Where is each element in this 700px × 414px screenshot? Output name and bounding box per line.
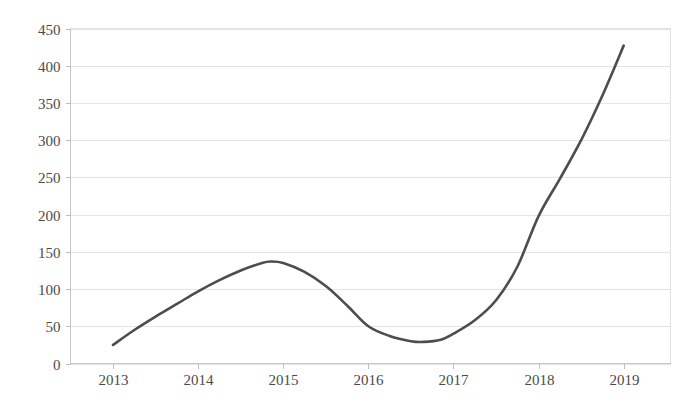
x-tick-label-2019: 2019 — [610, 372, 640, 388]
y-tick-label-150: 150 — [38, 245, 61, 261]
x-tick-label-2016: 2016 — [354, 372, 385, 388]
x-tick-label-2014: 2014 — [184, 372, 215, 388]
chart-container: 050100150200250300350400450 201320142015… — [0, 0, 700, 414]
x-tick-label-2013: 2013 — [99, 372, 129, 388]
y-tick-label-100: 100 — [38, 282, 61, 298]
chart-background — [0, 0, 700, 414]
line-chart: 050100150200250300350400450 201320142015… — [0, 0, 700, 414]
x-tick-label-2015: 2015 — [269, 372, 299, 388]
y-tick-label-450: 450 — [38, 22, 61, 38]
y-tick-label-200: 200 — [38, 208, 61, 224]
x-tick-label-2018: 2018 — [525, 372, 555, 388]
y-tick-label-50: 50 — [46, 319, 61, 335]
y-tick-label-400: 400 — [38, 59, 61, 75]
y-tick-label-350: 350 — [38, 96, 61, 112]
y-tick-label-300: 300 — [38, 133, 61, 149]
y-tick-label-250: 250 — [38, 170, 61, 186]
y-tick-label-0: 0 — [53, 357, 61, 373]
x-tick-label-2017: 2017 — [439, 372, 470, 388]
